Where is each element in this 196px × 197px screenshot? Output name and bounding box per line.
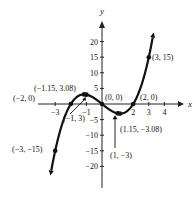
point-label: (0, 0) <box>105 93 123 102</box>
y-tick-label: −15 <box>85 147 98 156</box>
y-tick-label: 10 <box>90 69 98 78</box>
point-label: (−1.15, 3.08) <box>34 84 76 93</box>
x-tick-label: 4 <box>162 108 166 117</box>
data-point <box>69 102 74 107</box>
data-point <box>84 92 89 97</box>
point-label: (1.15, −3.08) <box>120 125 162 134</box>
point-label: (−2, 0) <box>13 94 35 103</box>
pointer-arrowhead <box>113 115 118 119</box>
x-tick-label: −3 <box>51 108 60 117</box>
point-label: (−3, −15) <box>12 145 43 154</box>
data-point <box>118 111 123 116</box>
data-point <box>53 149 58 154</box>
point-label: (1, −3) <box>110 151 132 160</box>
y-tick-label: 5 <box>94 84 98 93</box>
y-axis-label: y <box>99 6 104 16</box>
pointer-arrowhead <box>82 97 86 101</box>
point-label: (−1, 3) <box>63 114 85 123</box>
curve-arrow-right <box>150 33 155 38</box>
data-point <box>131 102 136 107</box>
x-tick-label: 2 <box>131 108 135 117</box>
y-tick-label: −20 <box>85 162 98 171</box>
x-axis-arrow <box>178 101 184 107</box>
cubic-function-graph: xy−3−12342015105−5−10−15−20 (−3, −15)(−2… <box>0 0 196 197</box>
y-tick-label: 15 <box>90 53 98 62</box>
x-axis-label: x <box>187 99 192 109</box>
data-point <box>100 102 105 107</box>
curve-arrow-left <box>49 170 54 175</box>
y-tick-label: −5 <box>89 116 98 125</box>
x-tick-label: 3 <box>147 108 151 117</box>
y-tick-label: 20 <box>90 38 98 47</box>
y-tick-label: −10 <box>85 131 98 140</box>
point-label: (3, 15) <box>152 53 174 62</box>
point-label: (2, 0) <box>140 93 158 102</box>
data-point <box>147 55 152 60</box>
y-axis-arrow <box>99 21 105 28</box>
